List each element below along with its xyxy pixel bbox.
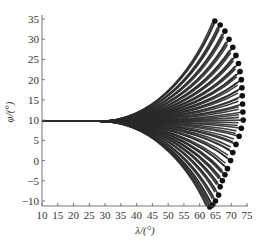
y-tick-label: −10 [22, 195, 40, 207]
x-tick-label: 55 [178, 209, 190, 221]
x-tick-label: 50 [163, 209, 175, 221]
endpoint-marker [240, 109, 246, 115]
x-axis-title: λ/(°) [134, 224, 155, 237]
endpoint-marker [239, 93, 245, 99]
y-tick-label: 0 [34, 155, 40, 167]
chart: −10−505101520253035 10152025303540455055… [0, 0, 267, 250]
endpoint-marker [237, 69, 243, 75]
x-tick-label: 60 [194, 209, 206, 221]
x-tick-label: 10 [37, 209, 49, 221]
endpoint-marker [233, 53, 239, 59]
endpoint-marker [233, 142, 239, 148]
x-tick-label: 25 [84, 209, 96, 221]
endpoint-marker [230, 45, 236, 51]
endpoint-marker [228, 158, 234, 164]
y-tick-label: 15 [28, 94, 40, 106]
endpoint-marker [222, 172, 228, 178]
endpoint-marker [236, 133, 242, 139]
endpoint-marker [220, 178, 226, 184]
y-ticks: −10−505101520253035 [22, 13, 45, 207]
endpoint-marker [236, 61, 242, 67]
endpoint-marker [240, 117, 246, 123]
endpoint-marker [212, 18, 218, 24]
y-tick-label: 30 [28, 33, 40, 45]
y-tick-label: 5 [34, 134, 40, 146]
x-tick-label: 45 [147, 209, 159, 221]
x-tick-label: 70 [226, 209, 238, 221]
x-tick-label: 35 [115, 209, 127, 221]
y-tick-label: −5 [27, 175, 39, 187]
y-tick-label: 20 [28, 74, 40, 86]
y-tick-label: 25 [28, 53, 40, 65]
endpoint-marker [217, 184, 223, 190]
y-axis-title: φ/(°) [3, 101, 16, 122]
y-tick-label: 10 [28, 114, 40, 126]
x-tick-label: 65 [210, 209, 222, 221]
x-tick-label: 75 [242, 209, 254, 221]
endpoint-marker [222, 28, 228, 34]
x-tick-label: 15 [52, 209, 64, 221]
endpoint-marker [230, 150, 236, 156]
x-tick-label: 40 [131, 209, 143, 221]
trajectory-curve [42, 21, 215, 121]
endpoint-marker [240, 101, 246, 107]
trajectory-curves [42, 21, 243, 207]
x-tick-label: 20 [68, 209, 80, 221]
endpoint-marker [217, 22, 223, 28]
endpoint-marker [239, 77, 245, 83]
x-tick-label: 30 [100, 209, 112, 221]
endpoint-marker [239, 85, 245, 91]
endpoint-marker [226, 36, 232, 42]
endpoint-marker [216, 192, 222, 198]
endpoint-marker [239, 125, 245, 131]
endpoint-marker [225, 166, 231, 172]
y-tick-label: 35 [28, 13, 40, 25]
